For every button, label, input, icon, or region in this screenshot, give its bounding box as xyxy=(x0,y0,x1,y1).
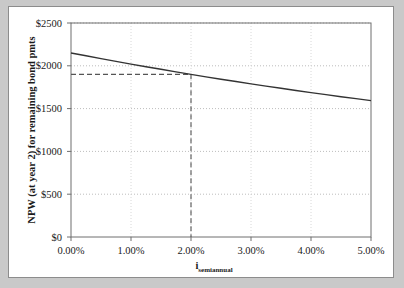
y-axis-title-text: NPW (at year 2) for remaining bond pmts xyxy=(26,36,38,223)
y-tick-label: $500 xyxy=(41,189,62,200)
plot-frame xyxy=(71,23,371,237)
x-axis-ticks xyxy=(71,237,371,241)
y-axis-title: NPW (at year 2) for remaining bond pmts xyxy=(26,36,38,223)
x-tick-label: 2.00% xyxy=(177,245,204,256)
x-tick-label: 4.00% xyxy=(297,245,324,256)
y-tick-label: $0 xyxy=(52,232,63,243)
x-axis-tick-labels: 0.00%1.00%2.00%3.00%4.00%5.00% xyxy=(57,245,384,256)
npw-vs-interest-rate-chart: $0$500$1000$1500$2000$2500 0.00%1.00%2.0… xyxy=(9,7,395,279)
chart-card: $0$500$1000$1500$2000$2500 0.00%1.00%2.0… xyxy=(8,6,394,278)
x-tick-label: 0.00% xyxy=(57,245,84,256)
y-axis-tick-labels: $0$500$1000$1500$2000$2500 xyxy=(36,18,62,243)
x-tick-label: 3.00% xyxy=(237,245,264,256)
x-tick-label: 5.00% xyxy=(357,245,384,256)
plot-area-wrapper: $0$500$1000$1500$2000$2500 0.00%1.00%2.0… xyxy=(9,7,393,277)
grid-lines xyxy=(71,23,371,237)
y-tick-label: $1500 xyxy=(36,103,62,114)
y-tick-label: $2500 xyxy=(36,18,62,29)
data-series-line xyxy=(71,53,371,101)
x-axis-title-text: isemiannual xyxy=(195,260,232,274)
x-axis-title-subscript: semiannual xyxy=(198,266,232,274)
x-tick-label: 1.00% xyxy=(117,245,144,256)
y-tick-label: $1000 xyxy=(36,146,62,157)
y-axis-ticks xyxy=(67,23,71,237)
x-axis-title: isemiannual xyxy=(195,260,232,274)
y-tick-label: $2000 xyxy=(36,60,62,71)
